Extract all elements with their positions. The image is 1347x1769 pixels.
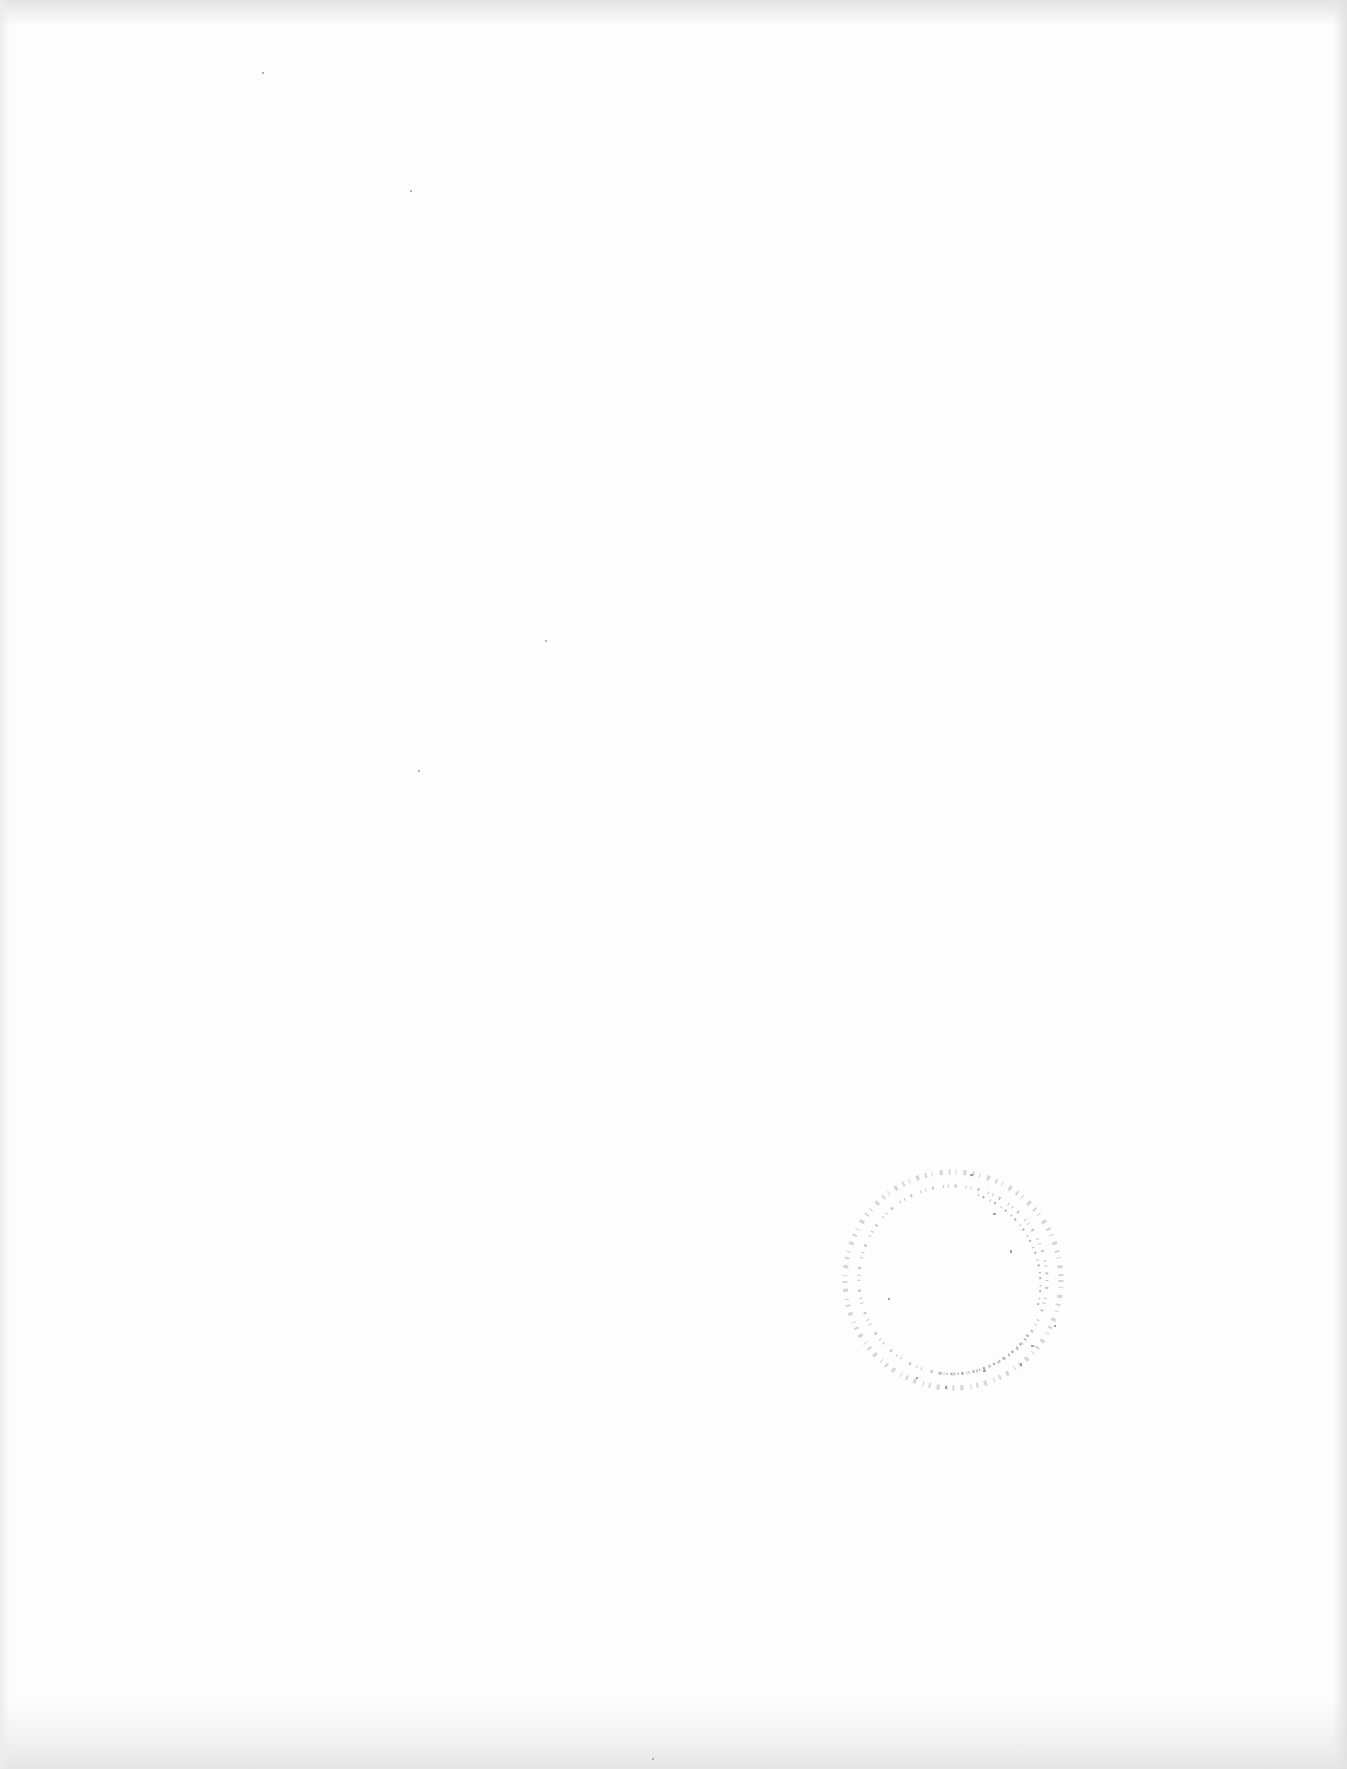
- scan-edge-left: [0, 0, 10, 1769]
- dust-speck: [652, 1758, 654, 1760]
- faded-circular-stamp: [828, 1155, 1078, 1405]
- dust-speck: [418, 770, 420, 772]
- scan-edge-top: [0, 0, 1347, 26]
- dust-speck: [262, 72, 264, 74]
- scan-edge-right: [1333, 0, 1347, 1769]
- scanned-page: [0, 0, 1347, 1769]
- dust-speck: [545, 640, 547, 642]
- dust-speck: [410, 190, 412, 192]
- scan-edge-bottom: [0, 1699, 1347, 1769]
